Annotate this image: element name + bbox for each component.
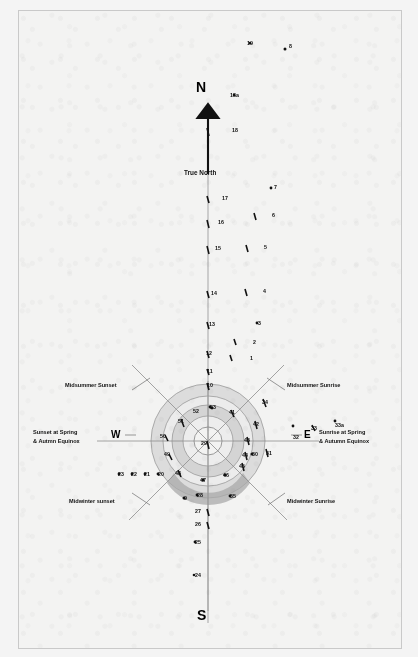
annotation-equinox-sunrise-line2: & Autumn Equinox (319, 438, 369, 445)
tick-26 (207, 522, 209, 529)
page-canvas: N S E W True North Midsummer Sunset Mids… (0, 0, 418, 657)
feature-label-15: 15 (215, 246, 221, 252)
feature-label-13: 13 (209, 322, 215, 328)
feature-label-18: 18 (232, 128, 238, 134)
feature-dot-7 (270, 187, 273, 190)
feature-label-8: 8 (289, 44, 292, 50)
feature-label-17: 17 (222, 196, 228, 202)
tick-27 (207, 509, 209, 516)
feature-label-44: 44 (242, 453, 248, 459)
feature-label-47: 47 (200, 478, 206, 484)
true-north-label: True North (184, 169, 216, 176)
tick-5 (246, 245, 248, 252)
feature-label-18a: 18a (230, 93, 239, 99)
feature-dot-32 (292, 425, 295, 428)
annotation-equinox-sunset-line1: Sunset at Spring (33, 429, 77, 436)
annotation-midsummer-sunrise: Midsummer Sunrise (287, 382, 340, 389)
feature-label-48: 48 (175, 471, 181, 477)
cardinal-east: E (304, 429, 311, 440)
feature-label-26: 26 (195, 522, 201, 528)
feature-label-11: 11 (207, 369, 213, 375)
tick-1 (230, 355, 232, 361)
leader-midwinter-sunrise (268, 493, 285, 505)
feature-label-42: 42 (253, 422, 259, 428)
feature-label-4: 4 (263, 289, 266, 295)
feature-label-14: 14 (211, 291, 217, 297)
site-plan-drawing (19, 11, 401, 648)
annotation-midwinter-sunset: Midwinter sunset (69, 498, 115, 505)
feature-label-32: 32 (293, 435, 299, 441)
feature-label-21: 21 (144, 472, 150, 478)
feature-label-5: 5 (264, 245, 267, 251)
feature-label-29: 29 (201, 441, 207, 447)
tick-4 (245, 289, 247, 296)
feature-label-49: 49 (164, 452, 170, 458)
feature-label-35: 35 (230, 494, 236, 500)
feature-label-25: 25 (195, 540, 201, 546)
feature-label-23: 23 (118, 472, 124, 478)
feature-label-7: 7 (274, 185, 277, 191)
annotation-midsummer-sunset: Midsummer Sunset (65, 382, 117, 389)
feature-label-51: 51 (178, 419, 184, 425)
cardinal-north: N (196, 79, 206, 95)
leader-midsummer-sunset (132, 378, 150, 390)
feature-label-6: 6 (272, 213, 275, 219)
feature-label-50: 50 (160, 434, 166, 440)
leader-midsummer-sunrise (267, 378, 285, 390)
feature-label-10: 10 (207, 383, 213, 389)
annotation-equinox-sunrise-line1: Sunrise at Spring (319, 429, 365, 436)
feature-label-28: 28 (197, 493, 203, 499)
annotation-equinox-sunset-line2: & Autmn Equinox (33, 438, 80, 445)
feature-label-34: 34 (262, 400, 268, 406)
feature-dot-8 (284, 48, 287, 51)
feature-label-3: 3 (258, 321, 261, 327)
feature-label-30: 30 (252, 452, 258, 458)
feature-label-31: 31 (266, 451, 272, 457)
feature-label-33: 33 (311, 426, 317, 432)
cardinal-west: W (111, 429, 120, 440)
feature-label-41: 41 (229, 410, 235, 416)
feature-label-45: 45 (239, 464, 245, 470)
feature-label-1: 1 (250, 356, 253, 362)
feature-label-24: 24 (195, 573, 201, 579)
tick-2 (234, 339, 236, 345)
feature-label-12: 12 (206, 351, 212, 357)
feature-label-52: 52 (193, 409, 199, 415)
tick-6 (254, 213, 256, 220)
tick-15 (207, 246, 209, 254)
feature-label-43: 43 (244, 438, 250, 444)
tick-14 (207, 291, 209, 298)
feature-label-16: 16 (218, 220, 224, 226)
scanned-paper-sheet: N S E W True North Midsummer Sunset Mids… (18, 10, 402, 649)
annotation-midwinter-sunrise: Midwinter Sunrise (287, 498, 335, 505)
feature-label-19: 19 (247, 41, 253, 47)
feature-label-2: 2 (253, 340, 256, 346)
feature-label-33a: 33a (335, 423, 344, 429)
tick-17 (207, 196, 209, 203)
cardinal-south: S (197, 607, 206, 623)
feature-label-20: 20 (158, 472, 164, 478)
feature-label-53: 53 (210, 405, 216, 411)
tick-16 (207, 220, 209, 228)
feature-label-27: 27 (195, 509, 201, 515)
leader-midwinter-sunset (132, 493, 150, 505)
feature-label-9: 9 (184, 496, 187, 502)
feature-label-46: 46 (223, 473, 229, 479)
feature-label-22: 22 (131, 472, 137, 478)
